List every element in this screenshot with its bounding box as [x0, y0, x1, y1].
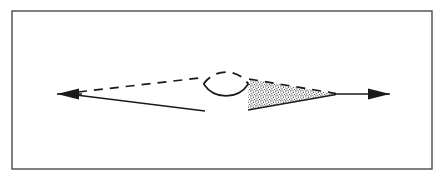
figure-drawing: Bidirectional axis diagram with central … [0, 0, 443, 180]
figure-container: Bidirectional axis diagram with central … [0, 0, 443, 180]
page-background [0, 0, 443, 180]
